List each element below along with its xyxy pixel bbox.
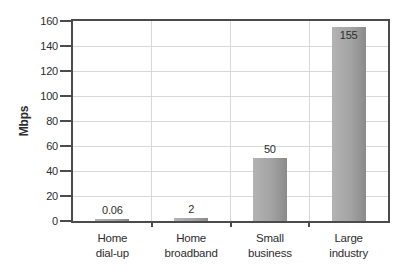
y-axis-tick-mark: [60, 120, 71, 122]
y-axis-tick-mark: [60, 145, 71, 147]
y-axis-tick-mark: [60, 170, 71, 172]
bar-value-label: 155: [340, 29, 358, 42]
category-label-line: Home: [73, 231, 152, 246]
category-label-line: industry: [309, 246, 388, 261]
y-axis-tick-mark: [60, 195, 71, 197]
bar-value-label: 50: [264, 143, 276, 156]
y-axis-tick-mark: [60, 220, 71, 222]
y-axis-tick-label: 120: [40, 66, 58, 77]
y-axis-tick-label: 160: [40, 16, 58, 27]
y-axis-tick-label: 140: [40, 41, 58, 52]
bar-chart: Mbps 020406080100120140160 0.06250155 Ho…: [0, 0, 408, 276]
bar-large-industry: [332, 27, 366, 221]
y-axis-tick-label: 20: [46, 191, 58, 202]
x-labels: Homedial-upHomebroadbandSmallbusinessLar…: [73, 231, 388, 261]
category-label-line: dial-up: [73, 246, 152, 261]
y-axis-tick-label: 60: [46, 141, 58, 152]
category-label-line: broadband: [152, 246, 231, 261]
bar-cell: 155: [309, 21, 388, 221]
category-label-large-industry: Largeindustry: [309, 231, 388, 261]
category-label-small-business: Smallbusiness: [231, 231, 310, 261]
category-label-home-dial-up: Homedial-up: [73, 231, 152, 261]
y-axis-tick-mark: [60, 95, 71, 97]
bar-home-dial-up: [95, 219, 129, 221]
bar-small-business: [253, 158, 287, 221]
category-label-line: Small: [231, 231, 310, 246]
bar-home-broadband: [174, 218, 208, 221]
category-label-home-broadband: Homebroadband: [152, 231, 231, 261]
category-label-line: Home: [152, 231, 231, 246]
x-axis-tick-mark: [151, 223, 153, 227]
bar-cell: 50: [231, 21, 310, 221]
y-axis-tick-mark: [60, 70, 71, 72]
bar-value-label: 2: [188, 203, 194, 216]
category-label-line: Large: [309, 231, 388, 246]
bar-value-label: 0.06: [102, 204, 123, 217]
plot-area: 0.06250155: [71, 19, 390, 223]
x-axis-tick-mark: [230, 223, 232, 227]
bars: 0.06250155: [73, 21, 388, 221]
y-axis-tick-label: 40: [46, 166, 58, 177]
y-axis-tick-label: 0: [52, 216, 58, 227]
y-axis-tick-label: 100: [40, 91, 58, 102]
bar-cell: 0.06: [73, 21, 152, 221]
category-label-line: business: [231, 246, 310, 261]
y-axis-tick-label: 80: [46, 116, 58, 127]
x-axis-tick-mark: [308, 223, 310, 227]
y-axis-tick-mark: [60, 45, 71, 47]
y-axis-tick-mark: [60, 20, 71, 22]
y-tick-labels: 020406080100120140160: [18, 21, 58, 221]
y-tick-marks: [60, 21, 71, 221]
x-tick-marks: [73, 223, 388, 227]
bar-cell: 2: [152, 21, 231, 221]
